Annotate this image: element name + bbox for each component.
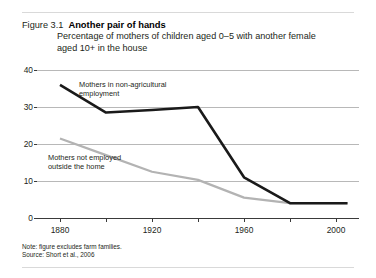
figure-title: Another pair of hands xyxy=(68,19,165,30)
figure-source: Source: Short et al., 2006 xyxy=(22,251,122,259)
y-axis-label-0: 0 xyxy=(28,213,33,223)
x-axis-label-1920: 1920 xyxy=(143,225,162,235)
figure-number: Figure 3.1 xyxy=(22,20,63,30)
annotation-not-employed-line2: outside the home xyxy=(48,162,158,171)
figure-container: Figure 3.1 Another pair of hands Percent… xyxy=(0,0,376,278)
x-axis-label-1880: 1880 xyxy=(51,225,70,235)
figure-note: Note: figure excludes farm families. xyxy=(22,243,122,251)
y-axis-label-20: 20 xyxy=(24,139,33,149)
figure-subtitle-line2: aged 10+ in the house xyxy=(57,43,352,55)
annotation-non-agricultural-line1: Mothers in non-agricultural xyxy=(79,80,199,89)
annotation-not-employed-line1: Mothers not employed xyxy=(48,153,158,162)
x-axis-tick-1900 xyxy=(106,218,107,222)
x-axis-tick-1980 xyxy=(290,218,291,222)
annotation-non-agricultural: Mothers in non-agricultural employment xyxy=(79,80,199,98)
x-axis-tick-2000 xyxy=(336,218,337,222)
y-axis-label-10: 10 xyxy=(24,176,33,186)
series-line-non-agricultural xyxy=(60,85,348,203)
figure-title-row: Figure 3.1 Another pair of hands xyxy=(22,19,352,30)
rule-top xyxy=(22,12,354,13)
y-axis-label-30: 30 xyxy=(24,102,33,112)
x-axis-tick-1940 xyxy=(198,218,199,222)
y-axis-label-40: 40 xyxy=(24,65,33,75)
x-axis-tick-1920 xyxy=(152,218,153,222)
annotation-not-employed: Mothers not employed outside the home xyxy=(48,153,158,171)
figure-subtitle: Percentage of mothers of children aged 0… xyxy=(57,31,352,54)
y-axis-tick-0 xyxy=(34,218,37,219)
annotation-non-agricultural-line2: employment xyxy=(79,89,199,98)
x-axis-label-2000: 2000 xyxy=(327,225,346,235)
plot-area: 010203040 1880192019602000 Mothers in no… xyxy=(37,70,359,218)
figure-notes: Note: figure excludes farm families. Sou… xyxy=(22,243,122,260)
x-axis-tick-1880 xyxy=(60,218,61,222)
x-axis-tick-1960 xyxy=(244,218,245,222)
rule-bottom xyxy=(22,267,354,268)
figure-subtitle-line1: Percentage of mothers of children aged 0… xyxy=(57,31,352,43)
x-axis-label-1960: 1960 xyxy=(235,225,254,235)
